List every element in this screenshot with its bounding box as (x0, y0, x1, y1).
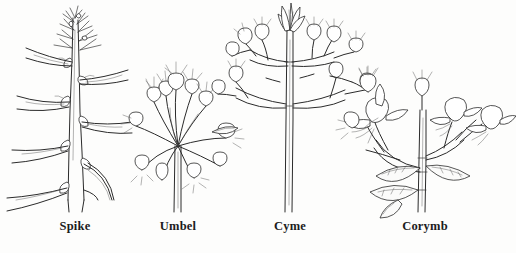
diagram-labels: Spike Umbel Cyme Corymb (0, 0, 516, 253)
label-spike: Spike (60, 219, 91, 234)
label-corymb: Corymb (402, 219, 448, 234)
label-umbel: Umbel (160, 219, 196, 234)
label-cyme: Cyme (274, 219, 306, 234)
inflorescence-figure: Spike Umbel Cyme Corymb (0, 0, 516, 253)
